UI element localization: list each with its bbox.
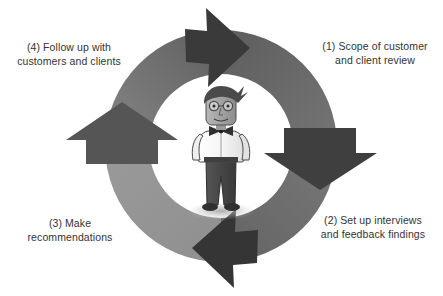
figure-eye-right [227,105,230,108]
figure-trousers [206,160,236,205]
figure-eye-left [213,105,216,108]
figure-shadow [187,202,255,220]
step-label-1: (1) Scope of customer and client review [313,39,437,67]
figure-shoe-left [202,203,218,211]
arrow-bottom-right [264,128,377,190]
step-label-3: (3) Make recommendations [8,216,132,244]
figure-shoe-right [224,203,240,211]
step-label-4: (4) Follow up with customers and clients [5,40,133,68]
businessman-illustration [187,86,255,220]
step-label-2: (2) Set up interviews and feedback findi… [307,213,439,241]
arrow-top-left [66,102,178,164]
figure-belt [204,157,238,162]
cycle-diagram: (1) Scope of customer and client review … [0,0,443,296]
